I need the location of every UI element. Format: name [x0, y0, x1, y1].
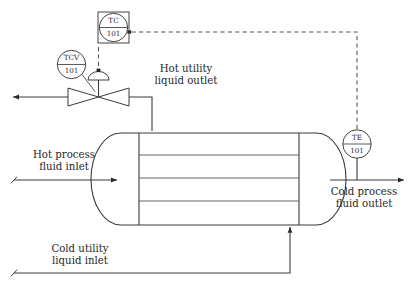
- tcv-101-tag-number: 101: [65, 66, 79, 75]
- te-101-tag-number: 101: [350, 146, 364, 155]
- tcv-101-function-letters: TCV: [64, 53, 80, 62]
- cold-process-outlet-line1: Cold process: [331, 186, 398, 197]
- label-cold-process-fluid-outlet: Cold process fluid outlet: [331, 186, 398, 209]
- label-hot-process-fluid-inlet: Hot process fluid inlet: [33, 149, 95, 172]
- vessel-shell-outline: [91, 133, 346, 225]
- instrument-tcv-101[interactable]: TCV 101: [57, 50, 95, 91]
- te-101-function-letters: TE: [352, 133, 362, 142]
- hot-process-inlet-line2: fluid inlet: [39, 161, 89, 172]
- process-flow-diagram: TC 101 TCV 101 TE 101 Hot utility liquid…: [0, 0, 415, 290]
- hot-process-inlet-line1: Hot process: [33, 149, 95, 160]
- instrument-te-101[interactable]: TE 101: [343, 130, 371, 180]
- valve-body-right: [99, 88, 130, 106]
- cold-utility-inlet-line2: liquid inlet: [52, 255, 109, 266]
- cold-process-outlet-line2: fluid outlet: [336, 198, 393, 209]
- tc-101-tag-number: 101: [107, 29, 121, 38]
- cold-utility-inlet-line1: Cold utility: [51, 243, 108, 254]
- hot-utility-outlet-line1: Hot utility: [160, 63, 213, 74]
- tc-101-function-letters: TC: [108, 16, 119, 25]
- valve-diaphragm-actuator: [88, 72, 109, 81]
- pid-canvas: TC 101 TCV 101 TE 101 Hot utility liquid…: [0, 0, 415, 290]
- hot-utility-outlet-line2: liquid outlet: [155, 75, 219, 86]
- pipe-vessel-to-valve: [129, 97, 152, 131]
- instrument-tc-101[interactable]: TC 101: [98, 12, 129, 43]
- heat-exchanger-vessel: [91, 133, 346, 225]
- label-cold-utility-liquid-inlet: Cold utility liquid inlet: [51, 243, 108, 266]
- label-hot-utility-liquid-outlet: Hot utility liquid outlet: [155, 63, 219, 86]
- actuator-signal-connection: [97, 69, 101, 72]
